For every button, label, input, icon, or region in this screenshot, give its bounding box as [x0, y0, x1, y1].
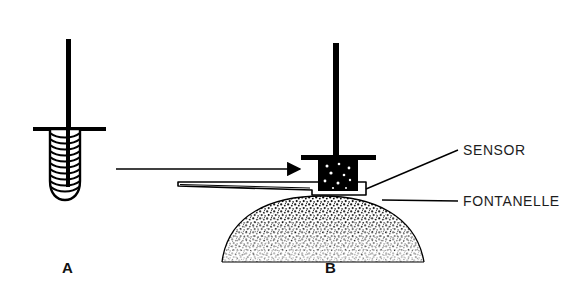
- probe-stem-a: [66, 39, 71, 131]
- label-sensor: SENSOR: [463, 143, 526, 157]
- panel-b-assembly: [178, 43, 430, 275]
- panel-caption-b: B: [325, 260, 336, 275]
- probe-stem-b: [333, 43, 339, 157]
- leader-lines: [366, 150, 458, 201]
- skull-dome: [215, 190, 430, 275]
- compressed-coil-b: [318, 159, 358, 191]
- panel-caption-a: A: [62, 260, 73, 275]
- label-fontanelle: FONTANELLE: [463, 194, 560, 208]
- sensor-leader-line: [366, 150, 458, 189]
- panel-a-probe: [33, 39, 106, 200]
- fontanelle-leader-line: [382, 200, 458, 201]
- figure-container: SENSOR FONTANELLE A B: [0, 0, 588, 295]
- probe-inner-stem-a: [66, 129, 70, 187]
